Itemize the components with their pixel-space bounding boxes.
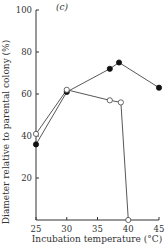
- x-tick-label: 35: [92, 224, 103, 234]
- open-circle-marker: [64, 87, 69, 92]
- series-line-1: [36, 90, 128, 220]
- filled-circle-marker: [33, 142, 38, 147]
- series-line-0: [36, 63, 159, 145]
- filled-circle-marker: [156, 85, 161, 90]
- panel-label: (c): [56, 2, 69, 12]
- open-circle-marker: [126, 217, 131, 222]
- axes: 204060801002530354045: [16, 5, 165, 234]
- open-circle-marker: [107, 98, 112, 103]
- y-tick-label: 60: [21, 89, 32, 99]
- open-circle-marker: [118, 100, 123, 105]
- open-circle-marker: [33, 131, 38, 136]
- y-tick-label: 80: [21, 47, 32, 57]
- chart: 204060801002530354045 (c) Incubation tem…: [0, 0, 167, 247]
- y-tick-label: 100: [16, 5, 32, 15]
- x-tick-label: 40: [123, 224, 134, 234]
- x-tick-label: 45: [154, 224, 165, 234]
- x-axis-label: Incubation temperature (°C): [32, 234, 162, 244]
- series-layer: [33, 60, 161, 223]
- x-tick-label: 25: [31, 224, 42, 234]
- y-axis-label: Diameter relative to parental colony (%): [1, 40, 11, 224]
- y-tick-label: 40: [21, 131, 32, 141]
- filled-circle-marker: [107, 66, 112, 71]
- x-tick-label: 30: [61, 224, 72, 234]
- filled-circle-marker: [116, 60, 121, 65]
- y-tick-label: 20: [21, 173, 32, 183]
